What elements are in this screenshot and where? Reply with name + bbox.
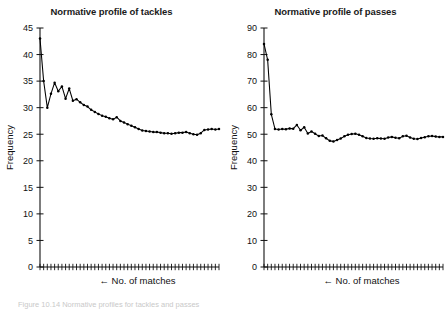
data-point xyxy=(167,132,170,135)
y-tick-label-0: 0 xyxy=(28,262,33,272)
y-tick-label-20: 20 xyxy=(247,209,257,219)
data-point xyxy=(159,131,162,134)
data-point xyxy=(288,127,291,130)
data-point xyxy=(61,85,64,88)
data-point xyxy=(318,135,321,138)
data-point xyxy=(101,114,104,117)
data-point xyxy=(332,140,335,143)
y-tick-label-90: 90 xyxy=(247,23,257,33)
data-point xyxy=(207,128,210,131)
data-point xyxy=(115,116,118,119)
y-tick-label-10: 10 xyxy=(247,236,257,246)
data-point xyxy=(413,137,416,140)
data-point xyxy=(358,134,361,137)
data-point xyxy=(296,124,299,127)
data-point xyxy=(380,137,383,140)
data-point xyxy=(123,121,126,124)
series-line-tackles xyxy=(40,39,219,135)
data-point xyxy=(141,129,144,132)
data-point xyxy=(97,113,100,116)
y-tick-label-20: 20 xyxy=(23,156,33,166)
data-point xyxy=(126,123,129,126)
y-tick-label-70: 70 xyxy=(247,76,257,86)
data-point xyxy=(189,132,192,135)
data-point xyxy=(270,113,273,116)
y-tick-label-40: 40 xyxy=(23,50,33,60)
data-point xyxy=(90,109,93,112)
data-point xyxy=(86,105,89,108)
data-point xyxy=(68,87,71,90)
data-point xyxy=(307,132,310,135)
data-point xyxy=(277,128,280,131)
data-point xyxy=(350,133,353,136)
y-tick-label-0: 0 xyxy=(252,262,257,272)
data-point xyxy=(196,134,199,137)
data-point xyxy=(420,137,423,140)
data-point xyxy=(112,118,115,121)
data-point xyxy=(148,130,151,133)
data-point xyxy=(354,132,357,135)
data-point xyxy=(369,137,372,140)
data-point xyxy=(57,90,60,93)
data-point xyxy=(423,136,426,139)
plot-area-tackles: 051015202530354045Frequency← No. of matc… xyxy=(0,0,223,296)
y-tick-label-35: 35 xyxy=(23,76,33,86)
data-point xyxy=(181,131,184,134)
data-point xyxy=(105,115,108,118)
y-tick-label-10: 10 xyxy=(23,209,33,219)
y-tick-label-30: 30 xyxy=(23,103,33,113)
y-tick-label-40: 40 xyxy=(247,156,257,166)
data-point xyxy=(266,59,269,62)
data-point xyxy=(145,130,148,133)
data-point xyxy=(83,104,86,107)
y-tick-label-15: 15 xyxy=(23,183,33,193)
data-point xyxy=(391,136,394,139)
data-point xyxy=(303,126,306,129)
chart-panel-passes: Normative profile of passes 010203040506… xyxy=(224,0,447,296)
data-point xyxy=(442,136,445,139)
data-point xyxy=(416,138,419,141)
y-tick-label-60: 60 xyxy=(247,103,257,113)
data-point xyxy=(329,140,332,143)
data-point xyxy=(398,137,401,140)
x-axis-title-tackles: ← No. of matches xyxy=(99,275,175,286)
data-point xyxy=(75,98,78,101)
data-point xyxy=(372,137,375,140)
data-point xyxy=(42,80,45,83)
data-point xyxy=(50,93,53,96)
data-point xyxy=(192,133,195,136)
data-point xyxy=(343,135,346,138)
data-point xyxy=(281,128,284,131)
y-tick-label-25: 25 xyxy=(23,130,33,140)
data-point xyxy=(218,128,221,131)
data-point xyxy=(431,135,434,138)
data-point xyxy=(39,37,42,40)
series-line-passes xyxy=(264,44,443,141)
data-point xyxy=(292,127,295,130)
data-point xyxy=(178,131,181,134)
data-point xyxy=(134,126,137,129)
data-point xyxy=(72,100,75,103)
data-point xyxy=(53,81,56,84)
chart-panel-tackles: Normative profile of tackles 05101520253… xyxy=(0,0,223,296)
data-point xyxy=(156,131,159,134)
data-point xyxy=(310,130,313,133)
data-point xyxy=(365,137,368,140)
x-axis-title-passes: ← No. of matches xyxy=(323,275,399,286)
data-point xyxy=(64,97,67,100)
figure-caption: Figure 10.14 Normative profiles for tack… xyxy=(18,300,438,309)
data-point xyxy=(427,135,430,138)
data-point xyxy=(285,128,288,131)
data-point xyxy=(314,132,317,135)
data-point xyxy=(119,120,122,123)
data-point xyxy=(214,128,217,131)
y-tick-label-50: 50 xyxy=(247,130,257,140)
data-point xyxy=(405,135,408,138)
data-point xyxy=(434,135,437,138)
data-point xyxy=(152,131,155,134)
data-point xyxy=(46,106,49,109)
data-point xyxy=(361,135,364,138)
data-point xyxy=(94,111,97,114)
data-point xyxy=(394,136,397,139)
